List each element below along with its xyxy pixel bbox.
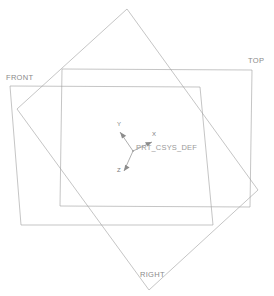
datum-plane-label-right[interactable]: RIGHT [140,271,165,279]
axis-label-y: Y [117,121,121,127]
csys-name-label[interactable]: PRT_CSYS_DEF [136,144,197,152]
datum-plane-label-front[interactable]: FRONT [6,74,33,82]
3d-model-viewport[interactable]: TOP FRONT RIGHT PRT_CSYS_DEF X Y Z [0,0,274,296]
axis-label-x: X [152,131,156,137]
csys-origin-marker [132,150,134,152]
datum-plane-label-top[interactable]: TOP [248,57,264,65]
axis-label-z: Z [117,167,121,173]
axis-arrow-y [120,132,126,139]
datum-plane-front[interactable] [10,86,213,225]
axis-arrow-z [124,165,130,171]
datum-plane-top[interactable] [60,69,252,207]
